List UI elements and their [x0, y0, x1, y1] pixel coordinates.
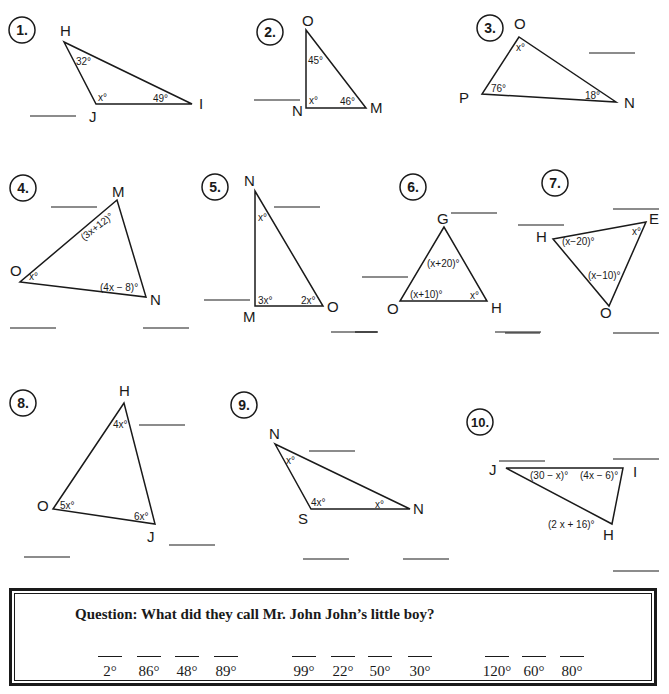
answer-degree: 30°	[400, 663, 440, 680]
answer-degree: 120°	[477, 663, 517, 680]
vertex-label: E	[649, 210, 659, 227]
vertex-label: H	[491, 299, 502, 316]
angle-label: 6x°	[134, 511, 149, 522]
vertex-label: M	[370, 99, 383, 116]
angle-label: (x−20)°	[562, 236, 595, 247]
answer-blank: 80°	[560, 656, 584, 680]
riddle-answers: 2° 86° 48° 89° 99° 22° 50° 30° 120° 60° …	[15, 656, 651, 680]
angle-label: (4x − 6)°	[580, 470, 618, 481]
vertex-label: H	[536, 228, 547, 245]
angle-label: x°	[632, 226, 641, 237]
angle-label: (x+20)°	[427, 258, 460, 269]
angle-label: 76°	[491, 83, 506, 94]
vertex-label: N	[150, 291, 161, 308]
angle-label: x°	[516, 42, 525, 53]
riddle-question: Question: What did they call Mr. John Jo…	[75, 606, 435, 623]
angle-label: (x+10)°	[410, 289, 443, 300]
vertex-label: O	[327, 298, 339, 315]
answer-degree: 2°	[90, 663, 130, 680]
angle-label: 49°	[153, 93, 168, 104]
vertex-label: O	[387, 300, 399, 317]
problem-number: 8.	[17, 395, 29, 411]
vertex-label: I	[633, 463, 637, 480]
angle-label: x°	[98, 92, 107, 103]
angle-label: x°	[258, 212, 267, 223]
angle-label: 4x°	[113, 419, 128, 430]
triangle-5	[255, 191, 323, 306]
angle-label: 5x°	[60, 500, 75, 511]
angle-label: 32°	[76, 56, 91, 67]
vertex-label: O	[37, 497, 49, 514]
answer-degree: 48°	[167, 663, 207, 680]
vertex-label: M	[112, 183, 125, 200]
answer-degree: 22°	[323, 663, 363, 680]
angle-label: x°	[309, 95, 318, 106]
problem-number: 10.	[471, 415, 489, 430]
angle-label: 3x°	[258, 295, 273, 306]
vertex-label: G	[437, 210, 449, 227]
angle-label: 2x°	[301, 295, 316, 306]
vertex-label: O	[10, 262, 22, 279]
riddle-box-inner: Question: What did they call Mr. John Jo…	[14, 593, 652, 681]
vertex-label: J	[489, 461, 497, 478]
problem-number: 4.	[17, 180, 29, 196]
answer-degree: 60°	[514, 663, 554, 680]
vertex-label: H	[60, 22, 71, 39]
vertex-label: M	[243, 308, 256, 325]
angle-label: 46°	[340, 96, 355, 107]
vertex-label: I	[199, 95, 203, 112]
triangle-worksheet-figure: 1. 2. 3. 4. 5. 6. 7. 8. 9. 10. H J I 32°…	[0, 0, 669, 580]
problem-number: 3.	[484, 20, 496, 36]
answer-degree: 86°	[129, 663, 169, 680]
answer-degree: 99°	[284, 663, 324, 680]
problem-number: 1.	[16, 22, 28, 38]
answer-blank: 30°	[408, 656, 432, 680]
angle-label: (3x+12)°	[78, 210, 115, 242]
vertex-label: J	[89, 108, 97, 125]
answer-degree: 80°	[552, 663, 592, 680]
angle-label: 18°	[585, 90, 600, 101]
answer-blank: 48°	[175, 656, 199, 680]
angle-label: (4x − 8)°	[100, 282, 138, 293]
vertex-label: O	[514, 15, 526, 32]
angle-label: (2 x + 16)°	[548, 519, 595, 530]
answer-blank: 89°	[214, 656, 238, 680]
problem-number: 7.	[549, 175, 561, 191]
answer-blank: 2°	[98, 656, 122, 680]
answer-blank: 86°	[137, 656, 161, 680]
vertex-label: J	[147, 528, 155, 545]
answer-degree: 89°	[206, 663, 246, 680]
angle-label: 45°	[308, 55, 323, 66]
vertex-label: N	[292, 102, 303, 119]
answer-blank: 120°	[485, 656, 509, 680]
angle-label: x°	[470, 290, 479, 301]
problem-number: 9.	[238, 397, 250, 413]
angle-label: 4x°	[311, 497, 326, 508]
angle-label: x°	[375, 499, 384, 510]
triangle-9	[275, 444, 410, 509]
vertex-label: N	[624, 94, 635, 111]
vertex-label: H	[119, 382, 130, 399]
vertex-label: O	[302, 12, 314, 29]
riddle-box: Question: What did they call Mr. John Jo…	[9, 588, 657, 686]
angle-label: (x−10)°	[588, 270, 621, 281]
triangle-1	[64, 42, 192, 104]
problem-number: 5.	[209, 179, 221, 195]
answer-blank: 99°	[292, 656, 316, 680]
angle-label: x°	[286, 455, 295, 466]
vertex-label: H	[603, 526, 614, 543]
angle-label: (30 − x)°	[530, 470, 568, 481]
vertex-label: N	[413, 500, 424, 517]
answer-degree: 50°	[360, 663, 400, 680]
answer-blank: 50°	[368, 656, 392, 680]
angle-label: x°	[29, 271, 38, 282]
vertex-label: N	[269, 425, 280, 442]
answer-blank: 22°	[331, 656, 355, 680]
problem-number: 6.	[407, 179, 419, 195]
answer-blank: 60°	[522, 656, 546, 680]
vertex-label: O	[600, 304, 612, 321]
vertex-label: P	[459, 89, 469, 106]
problem-number: 2.	[264, 24, 276, 40]
vertex-label: S	[298, 510, 308, 527]
vertex-label: N	[244, 172, 255, 189]
